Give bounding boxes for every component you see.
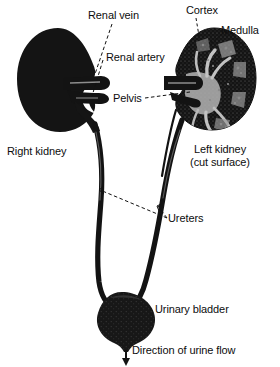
label-cortex: Cortex: [186, 4, 218, 17]
label-renal-vein: Renal vein: [88, 9, 139, 22]
label-direction-of-urine-flow: Direction of urine flow: [132, 344, 235, 357]
leader-ureters-left: [100, 190, 167, 218]
label-medulla: Medulla: [221, 24, 259, 37]
ureter-right: [95, 124, 114, 308]
urine-flow-arrowhead: [122, 358, 130, 366]
urinary-system-diagram: Renal vein Renal artery Cortex Medulla P…: [0, 0, 280, 367]
label-pelvis: Pelvis: [113, 92, 142, 105]
label-ureters: Ureters: [168, 212, 203, 225]
leader-renal-vein: [95, 24, 112, 74]
ureters-group: [95, 110, 182, 308]
medullary-pyramid-2: [233, 62, 246, 78]
label-right-kidney: Right kidney: [7, 145, 66, 158]
label-left-kidney: Left kidney (cut surface): [172, 143, 268, 168]
label-urinary-bladder: Urinary bladder: [155, 303, 229, 316]
label-left-kidney-line2: (cut surface): [172, 156, 268, 169]
label-renal-artery: Renal artery: [106, 51, 165, 64]
label-left-kidney-line1: Left kidney: [172, 143, 268, 156]
urinary-bladder-body: [97, 292, 155, 352]
